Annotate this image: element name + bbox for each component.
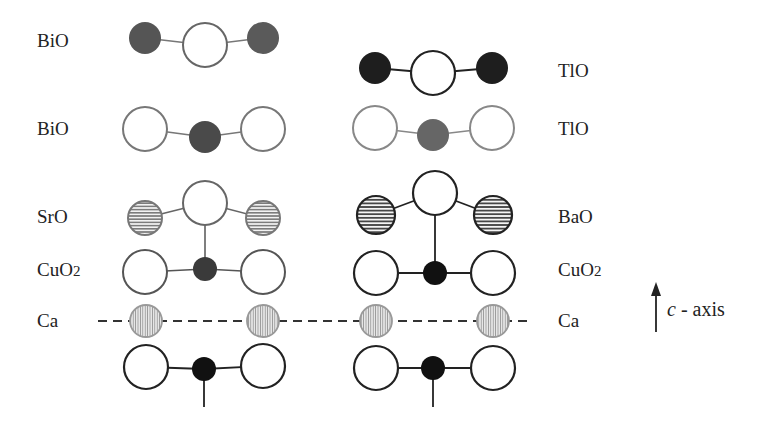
- bi-atom: [247, 22, 279, 54]
- label-cuo2-right: CuO2: [558, 259, 601, 280]
- oxygen-atom: [411, 51, 455, 95]
- layer-cuo2-upper-left: [123, 250, 285, 294]
- oxygen-atom: [183, 181, 227, 225]
- oxygen-atom: [353, 106, 397, 150]
- cu-atom: [421, 356, 445, 380]
- cu-atom: [423, 261, 447, 285]
- tl-structure: [353, 51, 515, 295]
- oxygen-atom: [124, 345, 168, 389]
- cu-atom: [192, 357, 216, 381]
- oxygen-atom: [183, 23, 227, 67]
- oxygen-atom: [241, 107, 285, 151]
- tl-atom: [476, 52, 508, 84]
- ca-atom: [477, 305, 509, 337]
- ba-atom: [474, 196, 512, 234]
- label-cuo2-left: CuO2: [37, 259, 80, 280]
- label-tlo-top: TlO: [558, 60, 589, 81]
- right-labels: TlO TlO BaO CuO2 Ca: [558, 60, 601, 331]
- ca-atom: [360, 305, 392, 337]
- ca-atom: [247, 305, 279, 337]
- ba-atom: [357, 196, 395, 234]
- oxygen-atom: [471, 251, 515, 295]
- oxygen-atom: [123, 107, 167, 151]
- tl-atom: [359, 52, 391, 84]
- layer-tlo-second: [353, 106, 514, 151]
- oxygen-atom: [241, 344, 285, 388]
- oxygen-atom: [354, 251, 398, 295]
- layer-cuo2-lower-right: [354, 346, 515, 407]
- left-labels: BiO BiO SrO CuO2 Ca: [37, 30, 80, 331]
- sr-atom: [128, 201, 162, 235]
- label-bao: BaO: [558, 206, 593, 227]
- label-ca-right: Ca: [558, 310, 580, 331]
- c-axis-indicator: c - axis: [651, 282, 725, 332]
- c-axis-label: c - axis: [667, 298, 725, 320]
- layer-cuo2-lower-left: [124, 344, 285, 407]
- oxygen-atom: [413, 171, 457, 215]
- label-tlo-second: TlO: [558, 118, 589, 139]
- bi-structure: [123, 22, 285, 294]
- label-bio-top: BiO: [37, 30, 69, 51]
- layer-bio-second: [123, 107, 285, 153]
- sr-atom: [246, 201, 280, 235]
- crystal-structure-diagram: BiO BiO SrO CuO2 Ca TlO TlO BaO CuO2 Ca: [0, 0, 770, 429]
- oxygen-atom: [123, 250, 167, 294]
- oxygen-atom: [471, 346, 515, 390]
- layer-ca: [98, 305, 532, 337]
- oxygen-atom: [241, 250, 285, 294]
- label-bio-second: BiO: [37, 118, 69, 139]
- ca-atom: [130, 305, 162, 337]
- label-ca-left: Ca: [37, 310, 59, 331]
- bi-atom: [129, 22, 161, 54]
- arrow-up-icon: [651, 282, 661, 296]
- layer-bio-top: [129, 22, 279, 67]
- oxygen-atom: [354, 346, 398, 390]
- bi-atom: [189, 121, 221, 153]
- layer-tlo-top: [359, 51, 508, 95]
- tl-atom: [417, 119, 449, 151]
- cu-atom: [193, 257, 217, 281]
- label-sro: SrO: [37, 206, 68, 227]
- oxygen-atom: [470, 106, 514, 150]
